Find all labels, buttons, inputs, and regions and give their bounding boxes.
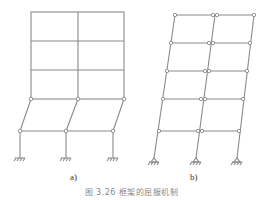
panel-a-label: a) [70, 172, 77, 182]
column-middle [196, 15, 215, 158]
sway-column-left [20, 99, 31, 131]
pinned-support-icon [148, 158, 159, 165]
panel-b-label: b) [190, 172, 198, 182]
figure-caption: 图 3.26 框架的屈服机制 [0, 186, 263, 197]
column-right [237, 15, 254, 158]
sway-column-middle [66, 99, 78, 131]
panel-b-plastic-hinges [157, 13, 255, 132]
plastic-hinge-icon [76, 97, 80, 101]
plastic-hinge-icon [29, 97, 33, 101]
fixed-support-icon [60, 158, 71, 161]
pinned-support-icon [190, 158, 201, 165]
panel-a-frame [14, 12, 124, 161]
sway-column-right [113, 99, 124, 131]
plastic-hinge-icon [122, 97, 126, 101]
panel-b-frame [154, 15, 254, 158]
plastic-hinge-icon [64, 129, 68, 133]
plastic-hinge-icon [18, 129, 22, 133]
fixed-support-icon [14, 158, 25, 161]
fixed-support-icon [107, 158, 118, 161]
frame-mechanism-figure [0, 0, 263, 200]
pinned-support-icon [231, 158, 242, 165]
plastic-hinge-icon [111, 129, 115, 133]
column-left [154, 15, 175, 158]
